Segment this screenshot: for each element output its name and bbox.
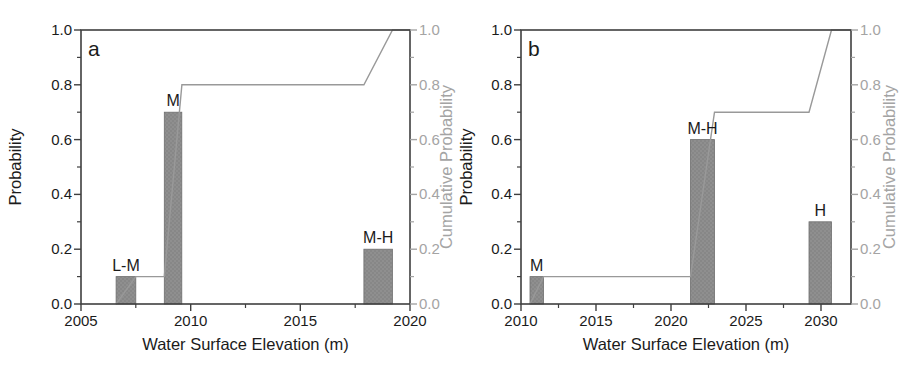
bar-label: H: [815, 202, 827, 219]
x-tick-label: 2015: [579, 312, 612, 329]
panel-letter: a: [88, 37, 100, 60]
y-tick-label-left: 0.6: [491, 131, 512, 148]
panel-b: 201020152020202520300.00.00.20.20.40.40.…: [457, 21, 898, 353]
x-tick-label: 2020: [393, 312, 426, 329]
panel-letter: b: [528, 37, 540, 60]
bar-m-h: [364, 249, 393, 304]
y-tick-label-left: 0.8: [51, 76, 72, 93]
x-axis-title: Water Surface Elevation (m): [142, 335, 349, 353]
y-tick-label-left: 1.0: [491, 21, 512, 38]
y-axis-title-right: Cumulative Probability: [437, 84, 455, 249]
bar-label: M: [166, 92, 179, 109]
bar-label: M-H: [687, 120, 717, 137]
x-tick-label: 2015: [284, 312, 317, 329]
panel-a: 20052010201520200.00.00.20.20.40.40.60.6…: [6, 21, 455, 353]
y-tick-label-right: 0.0: [419, 295, 440, 312]
y-tick-label-right: 0.8: [860, 76, 881, 93]
y-axis-title-right: Cumulative Probability: [880, 84, 898, 249]
dual-probability-chart: 20052010201520200.00.00.20.20.40.40.60.6…: [0, 0, 923, 373]
y-tick-label-right: 0.0: [860, 295, 881, 312]
bar-m-h: [691, 140, 715, 304]
y-tick-label-left: 0.0: [491, 295, 512, 312]
y-axis-title-left: Probability: [6, 128, 24, 206]
y-tick-label-right: 0.4: [860, 185, 881, 202]
figure: 20052010201520200.00.00.20.20.40.40.60.6…: [0, 0, 923, 373]
bar-m: [164, 112, 182, 304]
x-tick-label: 2010: [504, 312, 537, 329]
y-tick-label-right: 1.0: [860, 21, 881, 38]
y-tick-label-left: 0.4: [51, 185, 72, 202]
y-tick-label-right: 0.2: [860, 240, 881, 257]
y-tick-label-right: 0.6: [860, 131, 881, 148]
x-tick-label: 2020: [654, 312, 687, 329]
x-tick-label: 2025: [729, 312, 762, 329]
plot-frame: [521, 30, 851, 304]
bar-label: M: [530, 257, 543, 274]
bar-label: M-H: [363, 229, 393, 246]
y-tick-label-left: 0.0: [51, 295, 72, 312]
x-tick-label: 2005: [64, 312, 97, 329]
y-tick-label-left: 0.2: [491, 240, 512, 257]
y-tick-label-left: 0.4: [491, 185, 512, 202]
y-tick-label-left: 0.8: [491, 76, 512, 93]
x-tick-label: 2010: [174, 312, 207, 329]
y-tick-label-left: 0.2: [51, 240, 72, 257]
y-axis-title-left: Probability: [457, 128, 475, 206]
bar-h: [809, 222, 832, 304]
y-tick-label-left: 0.6: [51, 131, 72, 148]
x-tick-label: 2030: [804, 312, 837, 329]
x-axis-title: Water Surface Elevation (m): [583, 335, 790, 353]
bar-label: L-M: [112, 257, 140, 274]
y-tick-label-right: 1.0: [419, 21, 440, 38]
y-tick-label-left: 1.0: [51, 21, 72, 38]
